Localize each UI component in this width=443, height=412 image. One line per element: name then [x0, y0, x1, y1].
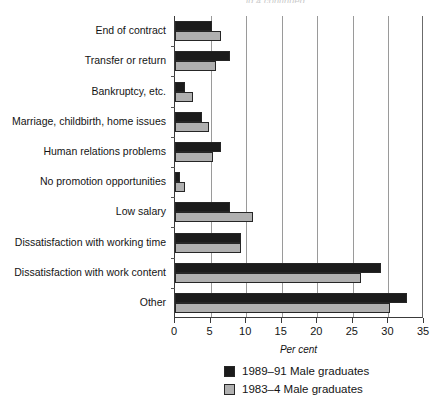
category-tick	[171, 197, 175, 198]
bar-chart-figure: ig 4 continued End of contractTransfer o…	[0, 0, 443, 412]
x-tick-label: 25	[346, 325, 358, 337]
category-label: Dissatisfaction with work content	[14, 267, 166, 278]
category-label: Bankruptcy, etc.	[91, 86, 166, 97]
bar-group	[175, 21, 422, 41]
bar	[175, 92, 193, 102]
category-label: End of contract	[95, 25, 166, 36]
bar-group	[175, 263, 422, 283]
legend-item: 1983–4 Male graduates	[224, 380, 434, 398]
clipped-caption-text: ig 4 continued	[246, 0, 443, 3]
category-label: Transfer or return	[85, 55, 166, 66]
category-label: No promotion opportunities	[40, 176, 166, 187]
bar	[175, 243, 241, 253]
category-tick	[171, 227, 175, 228]
plot-area	[174, 16, 423, 318]
bar	[175, 61, 216, 71]
category-label: Human relations problems	[43, 146, 166, 157]
x-tick-label: 20	[310, 325, 322, 337]
category-tick	[171, 288, 175, 289]
bar	[175, 142, 221, 152]
x-tick-label: 15	[275, 325, 287, 337]
bar	[175, 293, 407, 303]
bar	[175, 273, 361, 283]
legend-label: 1989–91 Male graduates	[242, 365, 369, 377]
x-tick	[210, 318, 211, 323]
bar-group	[175, 112, 422, 132]
chart-legend: 1989–91 Male graduates1983–4 Male gradua…	[224, 362, 434, 398]
legend-label: 1983–4 Male graduates	[242, 383, 363, 395]
bar	[175, 21, 212, 31]
x-tick	[316, 318, 317, 323]
category-label: Low salary	[116, 206, 166, 217]
bar	[175, 172, 180, 182]
x-tick	[387, 318, 388, 323]
x-tick-label: 5	[207, 325, 213, 337]
legend-item: 1989–91 Male graduates	[224, 362, 434, 380]
bar	[175, 263, 381, 273]
bar-group	[175, 142, 422, 162]
x-axis-title: Per cent	[174, 344, 423, 355]
bar	[175, 303, 390, 313]
bar	[175, 31, 221, 41]
bar-group	[175, 172, 422, 192]
category-tick	[171, 46, 175, 47]
bar	[175, 112, 202, 122]
bar	[175, 212, 253, 222]
category-label: Other	[140, 297, 166, 308]
bar	[175, 82, 185, 92]
bar	[175, 51, 230, 61]
category-label: Marriage, childbirth, home issues	[12, 116, 166, 127]
bar-group	[175, 82, 422, 102]
x-tick	[352, 318, 353, 323]
category-tick	[171, 167, 175, 168]
category-axis-labels: End of contractTransfer or returnBankrup…	[0, 16, 170, 318]
x-tick	[281, 318, 282, 323]
category-tick	[171, 137, 175, 138]
x-tick-label: 0	[171, 325, 177, 337]
legend-swatch-icon	[224, 366, 235, 377]
bar	[175, 182, 185, 192]
category-label: Dissatisfaction with working time	[15, 237, 166, 248]
x-tick	[423, 318, 424, 323]
bar	[175, 122, 209, 132]
bar-group	[175, 293, 422, 313]
category-tick	[171, 107, 175, 108]
x-tick-label: 35	[417, 325, 429, 337]
bar-group	[175, 51, 422, 71]
x-tick	[245, 318, 246, 323]
bar	[175, 152, 213, 162]
bar	[175, 233, 241, 243]
bars-layer	[175, 16, 422, 317]
legend-swatch-icon	[224, 384, 235, 395]
bar	[175, 202, 230, 212]
x-tick-label: 10	[239, 325, 251, 337]
x-tick-label: 30	[381, 325, 393, 337]
x-tick	[174, 318, 175, 323]
bar-group	[175, 202, 422, 222]
category-tick	[171, 258, 175, 259]
category-tick	[171, 76, 175, 77]
bar-group	[175, 233, 422, 253]
